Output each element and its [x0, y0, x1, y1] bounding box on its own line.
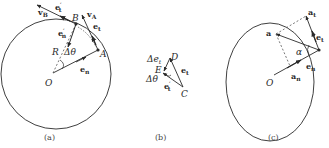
label-et-b: et	[181, 65, 189, 76]
et-prime-arrow	[60, 16, 70, 21]
et-arrow	[92, 36, 96, 45]
label-vA: vA	[86, 9, 97, 20]
diagram-canvas: vB e′t B vA et e′n R Δθ A en O (a) Δet D…	[0, 0, 329, 148]
panel-a: vB e′t B vA et e′n R Δθ A en O (a)	[1, 1, 111, 142]
label-en: en	[80, 64, 90, 75]
caption-a: (a)	[44, 133, 55, 142]
label-dtheta: Δθ	[63, 47, 76, 57]
label-O: O	[45, 78, 53, 88]
label-en-c: en	[306, 61, 316, 72]
label-en-prime: e′n	[58, 27, 67, 39]
en-prime-arrow	[68, 24, 76, 47]
label-at: at	[308, 7, 316, 18]
label-an: an	[291, 71, 301, 82]
label-alpha: α	[296, 47, 302, 57]
label-et: et	[93, 21, 101, 32]
trajectory-circle	[1, 19, 111, 129]
panel-b: Δet D E et Δθ e′t C (b)	[145, 52, 189, 142]
dtheta-arc-b	[165, 73, 171, 76]
label-O-c: O	[266, 78, 274, 88]
label-C: C	[181, 89, 188, 99]
label-vB: vB	[37, 7, 48, 18]
DE-line	[164, 58, 170, 71]
label-A: A	[99, 49, 107, 59]
label-B: B	[71, 13, 79, 23]
angle-arc	[60, 60, 64, 69]
label-et-c: et	[316, 32, 324, 43]
label-D: D	[170, 52, 178, 62]
label-de: Δet	[146, 54, 162, 65]
label-et-prime-b: e′t	[164, 80, 171, 92]
label-R: R	[51, 47, 59, 57]
label-a: a	[266, 28, 271, 38]
label-dtheta-b: Δθ	[145, 74, 158, 84]
label-et-prime: e′t	[55, 1, 62, 13]
caption-c: (c)	[268, 133, 279, 142]
caption-b: (b)	[155, 133, 166, 142]
en-arrow	[76, 57, 86, 62]
point-c	[317, 48, 320, 51]
panel-c: at a et α en an O (c)	[226, 7, 324, 142]
